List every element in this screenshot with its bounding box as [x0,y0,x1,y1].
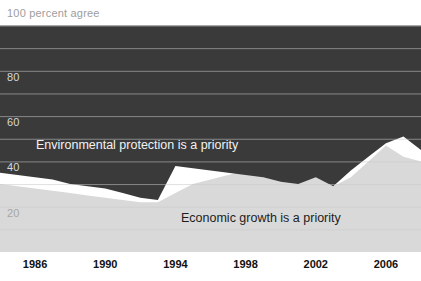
y-axis-tick-60: 60 [7,117,20,128]
x-axis-tick-2006: 2006 [374,258,398,270]
chart-container: 100 percent agree 20406080 Environmental… [0,0,421,281]
x-axis-tick-2002: 2002 [304,258,328,270]
series-label-economy: Economic growth is a priority [181,211,341,225]
y-axis-unit-note: 100 percent agree [7,7,100,19]
y-axis-tick-80: 80 [7,72,20,83]
x-axis-tick-1990: 1990 [93,258,117,270]
x-axis-tick-1994: 1994 [163,258,187,270]
x-axis-tick-1986: 1986 [23,258,47,270]
y-axis-tick-20: 20 [7,208,20,219]
y-axis-tick-40: 40 [7,162,20,173]
x-axis: 198619901994199820022006 [0,252,421,281]
series-label-environment: Environmental protection is a priority [36,138,238,152]
x-axis-tick-1998: 1998 [233,258,257,270]
